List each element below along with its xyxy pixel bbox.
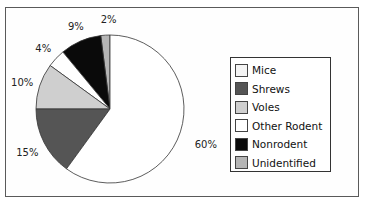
pie-label: 60%	[195, 139, 217, 150]
legend-swatch	[235, 138, 248, 151]
legend-item-shrews: Shrews	[235, 80, 326, 99]
pie-label: 4%	[35, 43, 51, 54]
legend-item-nonrodent: Nonrodent	[235, 135, 326, 154]
legend-label: Nonrodent	[252, 138, 307, 150]
legend-label: Mice	[252, 64, 276, 76]
pie-slices	[36, 35, 184, 183]
legend-swatch	[235, 64, 248, 77]
legend-label: Voles	[252, 101, 280, 113]
legend-label: Other Rodent	[252, 120, 322, 132]
pie-label: 15%	[16, 147, 38, 158]
legend-swatch	[235, 101, 248, 114]
legend-item-unidentified: Unidentified	[235, 154, 326, 173]
legend-item-voles: Voles	[235, 98, 326, 117]
legend: Mice Shrews Voles Other Rodent Nonrodent…	[230, 57, 331, 172]
legend-swatch	[235, 119, 248, 132]
legend-label: Unidentified	[252, 157, 316, 169]
legend-swatch	[235, 82, 248, 95]
pie-label: 2%	[101, 14, 117, 25]
legend-item-mice: Mice	[235, 61, 326, 80]
legend-swatch	[235, 156, 248, 169]
pie-label: 9%	[68, 21, 84, 32]
legend-item-other-rodent: Other Rodent	[235, 117, 326, 136]
pie-label: 10%	[11, 77, 33, 88]
legend-label: Shrews	[252, 83, 290, 95]
